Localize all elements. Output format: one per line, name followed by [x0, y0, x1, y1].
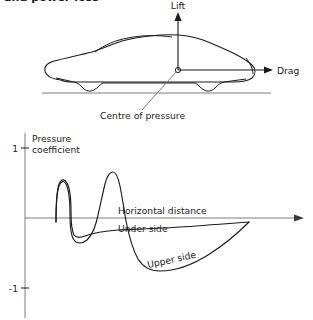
- pressure-coefficient-chart: 1 -1 Pressure coefficient Horizontal dis…: [9, 133, 304, 318]
- figure-svg: Lift Drag Centre of pressure 1 -1 Pressu…: [0, 0, 313, 320]
- y-axis-title-line2: coefficient: [32, 144, 80, 155]
- drag-arrow-head-icon: [264, 67, 273, 74]
- car-sill-and-wheel-arches: [56, 78, 246, 91]
- ytick-label-negative-one: -1: [9, 283, 18, 294]
- figure-root: and power loss Lift Drag: [0, 0, 313, 320]
- ytick-label-positive-one: 1: [12, 143, 18, 154]
- y-axis-title-line1: Pressure: [32, 133, 72, 144]
- car-body-outline: [45, 35, 255, 82]
- cropped-heading-text: and power loss: [4, 0, 99, 4]
- drag-label: Drag: [277, 65, 299, 76]
- upper-side-curve-label: Upper side: [146, 249, 197, 270]
- under-side-curve-label: Under side: [118, 223, 168, 234]
- lift-label: Lift: [171, 0, 186, 11]
- x-axis-arrow-head-icon: [294, 214, 304, 221]
- car-aerodynamics-diagram: Lift Drag Centre of pressure: [42, 0, 299, 121]
- lift-arrow-head-icon: [174, 12, 181, 21]
- upper-side-curve: [56, 172, 249, 271]
- centre-of-pressure-label: Centre of pressure: [100, 110, 185, 121]
- x-axis-title: Horizontal distance: [118, 205, 207, 216]
- centre-of-pressure-leader-line: [142, 72, 176, 110]
